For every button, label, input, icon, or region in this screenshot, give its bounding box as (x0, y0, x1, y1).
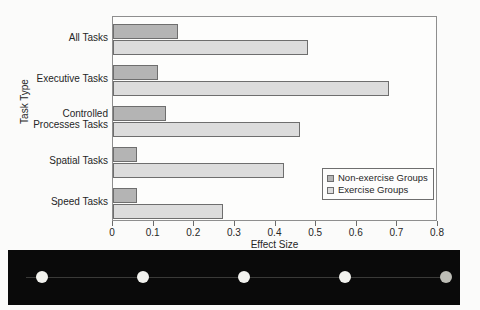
x-axis-tick-5 (315, 221, 316, 226)
y-axis-label-line: Speed Tasks (51, 196, 108, 207)
bar-non-exercise-4 (113, 147, 137, 162)
scan-artifact-dot-5 (440, 271, 452, 283)
chart-legend: Non-exercise Groups Exercise Groups (322, 168, 434, 200)
legend-label-non-exercise: Non-exercise Groups (338, 172, 428, 184)
legend-label-exercise: Exercise Groups (338, 184, 408, 196)
x-axis-tick-6 (356, 221, 357, 226)
scan-artifact-dot-1 (36, 271, 48, 283)
bar-exercise-3 (113, 122, 300, 137)
bar-exercise-5 (113, 204, 223, 219)
x-axis-tick-label-6: 0.6 (341, 227, 371, 238)
legend-item-exercise: Exercise Groups (327, 184, 428, 196)
x-axis-tick-label-4: 0.4 (260, 227, 290, 238)
y-axis-labels: All TasksExecutive TasksControlledProces… (0, 16, 108, 221)
bar-non-exercise-2 (113, 65, 158, 80)
x-axis-tick-4 (275, 221, 276, 226)
bar-exercise-4 (113, 163, 284, 178)
y-axis-label-5: Speed Tasks (51, 196, 108, 207)
y-axis-label-line: All Tasks (69, 32, 108, 43)
legend-item-non-exercise: Non-exercise Groups (327, 172, 428, 184)
bar-exercise-2 (113, 81, 389, 96)
y-axis-label-2: Executive Tasks (36, 73, 108, 84)
y-axis-label-line: Controlled (33, 108, 108, 119)
y-axis-label-1: All Tasks (69, 32, 108, 43)
bar-exercise-1 (113, 40, 308, 55)
bar-non-exercise-5 (113, 188, 137, 203)
x-axis-tick-label-0: 0 (97, 227, 127, 238)
x-axis-title: Effect Size (112, 239, 437, 250)
x-axis-tick-7 (396, 221, 397, 226)
scan-artifact-dot-4 (339, 271, 351, 283)
x-axis-tick-8 (437, 221, 438, 226)
y-axis-label-line: Processes Tasks (33, 119, 108, 130)
x-axis-tick-label-3: 0.3 (219, 227, 249, 238)
y-axis-label-4: Spatial Tasks (49, 155, 108, 166)
scan-artifact-line (26, 277, 446, 278)
x-axis-tick-2 (193, 221, 194, 226)
x-axis-tick-label-2: 0.2 (178, 227, 208, 238)
x-axis-tick-label-1: 0.1 (138, 227, 168, 238)
y-axis-label-line: Spatial Tasks (49, 155, 108, 166)
bar-non-exercise-1 (113, 24, 178, 39)
x-axis-tick-label-8: 0.8 (422, 227, 452, 238)
x-axis-tick-0 (112, 221, 113, 226)
scan-artifact-dot-2 (137, 271, 149, 283)
legend-swatch-icon-non-exercise (327, 175, 334, 182)
x-axis-tick-label-7: 0.7 (381, 227, 411, 238)
y-axis-label-3: ControlledProcesses Tasks (33, 108, 108, 130)
bar-non-exercise-3 (113, 106, 166, 121)
x-axis-tick-1 (153, 221, 154, 226)
figure-container: Task Type All TasksExecutive TasksContro… (0, 0, 480, 310)
x-axis-tick-3 (234, 221, 235, 226)
scan-artifact-strip (8, 250, 460, 305)
y-axis-label-line: Executive Tasks (36, 73, 108, 84)
scan-artifact-dot-3 (238, 271, 250, 283)
x-axis-tick-label-5: 0.5 (300, 227, 330, 238)
legend-swatch-icon-exercise (327, 187, 334, 194)
